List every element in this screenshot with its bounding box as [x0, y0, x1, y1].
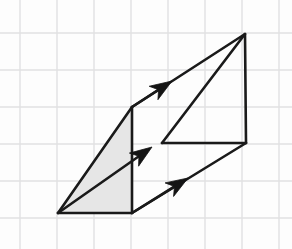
figure-background [0, 0, 292, 249]
edge-right-vertical [245, 34, 246, 143]
geometry-figure [0, 0, 292, 249]
figure-canvas: Geometric vector figure on graph paper A… [0, 0, 292, 249]
